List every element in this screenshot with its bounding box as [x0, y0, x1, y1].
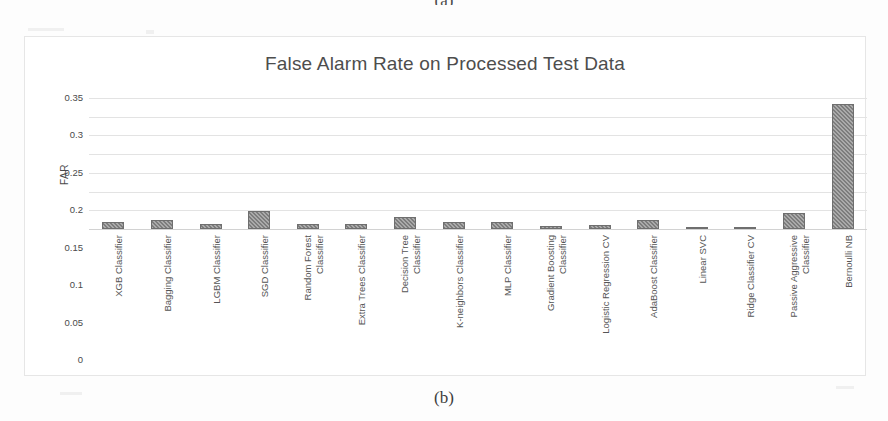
bar[interactable]: [540, 226, 562, 229]
x-tick-label: Gradient BoostingClassifier: [551, 235, 552, 236]
x-tick-label: LGBM Classifier: [211, 235, 212, 236]
bar-slot: [332, 98, 381, 229]
x-tick-label-line: Ridge Classifier CV: [745, 235, 757, 365]
x-tick-label: Bagging Classifier: [162, 235, 163, 236]
x-tick-label: K-neighbors Classifier: [454, 235, 455, 236]
x-tick-label-line: Passive Aggressive: [788, 235, 800, 365]
bar-slot: [429, 98, 478, 229]
bar-slot: [284, 98, 333, 229]
x-tick-label-line: Extra Trees Classifier: [356, 235, 368, 365]
bar-slot: [235, 98, 284, 229]
bar[interactable]: [637, 220, 659, 229]
bar-slot: [721, 98, 770, 229]
x-tick-label-line: Gradient Boosting: [545, 235, 557, 365]
bar-slot: [478, 98, 527, 229]
y-axis-tick: 0.3: [70, 131, 83, 141]
chart-figure: False Alarm Rate on Processed Test Data …: [24, 36, 866, 376]
x-tick-label-line: K-neighbors Classifier: [454, 235, 466, 365]
x-tick-label-line: Classifier: [800, 235, 812, 365]
bar-slot: [186, 98, 235, 229]
bar[interactable]: [832, 104, 854, 229]
x-tick-label-line: AdaBoost Classifier: [648, 235, 660, 365]
x-tick-label-line: XGB Classifier: [113, 235, 125, 365]
bar-slot: [818, 98, 867, 229]
x-tick-label-line: Classifier: [556, 235, 568, 365]
figure-caption-a: (a): [0, 0, 888, 5]
y-axis-tick: 0: [78, 355, 83, 365]
bar[interactable]: [102, 222, 124, 229]
x-tick-label: MLP Classifier: [502, 235, 503, 236]
bar-series: [89, 98, 867, 229]
x-tick-label: Bernoulli NB: [843, 235, 844, 236]
bar-slot: [575, 98, 624, 229]
x-tick-label: Linear SVC: [697, 235, 698, 236]
bar[interactable]: [394, 217, 416, 229]
bar-slot: [770, 98, 819, 229]
y-axis-tick: 0.2: [70, 206, 83, 216]
bar-slot: [381, 98, 430, 229]
bar[interactable]: [734, 227, 756, 229]
gridline: 0: [89, 229, 867, 230]
figure-page: (a) False Alarm Rate on Processed Test D…: [0, 0, 888, 421]
bar-slot: [624, 98, 673, 229]
bar[interactable]: [200, 224, 222, 229]
x-tick-label-line: Logistic Regression CV: [600, 235, 612, 365]
x-tick-label-line: MLP Classifier: [502, 235, 514, 365]
x-tick-label: AdaBoost Classifier: [648, 235, 649, 236]
x-tick-label: Passive AggressiveClassifier: [794, 235, 795, 236]
y-axis-tick: 0.15: [65, 243, 84, 253]
bar[interactable]: [443, 222, 465, 229]
x-tick-label-line: Random Forest: [302, 235, 314, 365]
bar[interactable]: [248, 211, 270, 229]
bar[interactable]: [297, 224, 319, 229]
bar[interactable]: [491, 222, 513, 229]
x-tick-label: Ridge Classifier CV: [745, 235, 746, 236]
y-axis-tick: 0.35: [65, 93, 84, 103]
x-tick-label: Extra Trees Classifier: [356, 235, 357, 236]
chart-title: False Alarm Rate on Processed Test Data: [25, 53, 865, 75]
x-tick-label-line: Linear SVC: [697, 235, 709, 365]
x-tick-label: SGD Classifier: [259, 235, 260, 236]
figure-caption-b: (b): [0, 388, 888, 408]
bar[interactable]: [783, 213, 805, 229]
x-tick-label-line: Classifier: [411, 235, 423, 365]
bar[interactable]: [686, 227, 708, 229]
x-tick-label-line: SGD Classifier: [259, 235, 271, 365]
bar[interactable]: [151, 220, 173, 229]
scan-artifact: [146, 30, 154, 34]
bar[interactable]: [345, 224, 367, 229]
y-axis-tick: 0.05: [65, 318, 84, 328]
x-tick-label-line: Bagging Classifier: [162, 235, 174, 365]
y-axis-tick: 0.1: [70, 280, 83, 290]
x-tick-label: Random ForestClassifier: [308, 235, 309, 236]
bar[interactable]: [589, 225, 611, 229]
x-tick-label: Decision TreeClassifier: [405, 235, 406, 236]
scan-artifact: [28, 28, 64, 31]
plot-area: 0.350.30.250.20.150.10.050: [89, 98, 867, 229]
bar-slot: [89, 98, 138, 229]
x-axis-tick-labels: XGB ClassifierBagging ClassifierLGBM Cla…: [89, 233, 867, 373]
y-axis-tick: 0.25: [65, 168, 84, 178]
x-tick-label-line: LGBM Classifier: [211, 235, 223, 365]
x-tick-label-line: Decision Tree: [399, 235, 411, 365]
x-tick-label-line: Classifier: [313, 235, 325, 365]
bar-slot: [138, 98, 187, 229]
x-tick-label-line: Bernoulli NB: [843, 235, 855, 365]
x-tick-label: Logistic Regression CV: [600, 235, 601, 236]
x-tick-label: XGB Classifier: [113, 235, 114, 236]
bar-slot: [673, 98, 722, 229]
bar-slot: [527, 98, 576, 229]
